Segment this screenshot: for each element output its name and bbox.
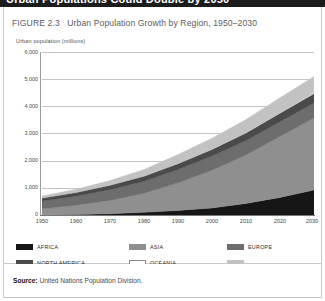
legend-item-oceania[interactable]: OCEANIA [129, 253, 176, 264]
legend-item-europe[interactable]: EUROPE [227, 237, 272, 248]
y-tick-label: 4,000 [25, 103, 39, 109]
figure-caption: FIGURE 2.3 Urban Population Growth by Re… [12, 18, 257, 28]
y-axis-line [40, 52, 41, 216]
y-axis-tick-labels: 6,000 5,000 4,000 3,000 2,000 1,000 0 [4, 52, 38, 215]
x-tick-label: 2030 [300, 218, 324, 224]
legend-label: AFRICA [37, 244, 58, 250]
x-tick-label: 2020 [268, 218, 292, 224]
legend-item-asia[interactable]: ASIA [129, 237, 163, 248]
chart-plot-area [42, 52, 314, 215]
page-header-bar: Urban Populations Could Double by 2050 [0, 0, 325, 7]
x-tick-label: 1980 [132, 218, 156, 224]
x-tick-label: 2000 [200, 218, 224, 224]
y-tick-label: 0 [35, 211, 38, 217]
x-tick-label: 2010 [234, 218, 258, 224]
source-label: Source: [13, 277, 38, 284]
source-container: Source: United Nations Population Divisi… [3, 264, 322, 298]
chart-legend: AFRICA ASIA EUROPE NORTH AMERICA OCEANIA… [16, 237, 321, 267]
page-header-title: Urban Populations Could Double by 2050 [6, 0, 229, 5]
source-text: United Nations Population Division. [39, 277, 142, 284]
stacked-area-series [42, 52, 314, 216]
legend-item-south-and-central-america[interactable]: SOUTH AND CENTRAL AMERICA [227, 253, 321, 264]
legend-item-africa[interactable]: AFRICA [16, 237, 58, 248]
figure-caption-title: Urban Population Growth by Region, 1950–… [67, 18, 257, 28]
x-axis-line [40, 215, 315, 216]
y-tick-label: 6,000 [25, 49, 39, 55]
y-tick-label: 3,000 [25, 130, 39, 136]
legend-label: ASIA [150, 244, 163, 250]
y-tick-label: 2,000 [25, 157, 39, 163]
legend-swatch-icon [16, 244, 33, 250]
x-tick-label: 1950 [30, 218, 54, 224]
legend-swatch-icon [129, 244, 146, 250]
figure-caption-number: FIGURE 2.3 [12, 18, 60, 28]
figure-page: Urban Populations Could Double by 2050 F… [0, 0, 325, 301]
y-axis-title: Urban population (millions) [16, 38, 85, 44]
figure-container: FIGURE 2.3 Urban Population Growth by Re… [3, 7, 322, 264]
legend-label: EUROPE [248, 244, 272, 250]
y-tick-label: 1,000 [25, 184, 39, 190]
x-tick-label: 1960 [64, 218, 88, 224]
x-tick-label: 1970 [98, 218, 122, 224]
y-tick-label: 5,000 [25, 76, 39, 82]
legend-item-north-america[interactable]: NORTH AMERICA [16, 253, 85, 264]
legend-swatch-icon [227, 244, 244, 250]
source-note: Source: United Nations Population Divisi… [13, 277, 142, 284]
x-tick-label: 1990 [166, 218, 190, 224]
